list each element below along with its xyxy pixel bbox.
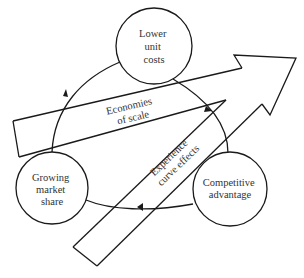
node-growing-market-share: Growing market share xyxy=(16,152,88,224)
node-label: Competitive advantage xyxy=(203,177,258,200)
arrowhead xyxy=(234,55,296,115)
cycle-arrowhead-bottom xyxy=(137,203,143,211)
economies-of-scale-label: Economies of scale xyxy=(105,95,158,128)
economies-band-end xyxy=(13,121,19,157)
experience-band-end xyxy=(73,247,97,266)
experience-curve-effects-label: Experience curve effects xyxy=(147,134,202,188)
node-lower-unit-costs: Lower unit costs xyxy=(116,8,192,84)
cycle-arrowhead-left xyxy=(63,89,68,97)
virtuous-cycle-diagram: Lower unit costs Growing market share Co… xyxy=(0,0,304,278)
node-competitive-advantage: Competitive advantage xyxy=(193,152,267,226)
